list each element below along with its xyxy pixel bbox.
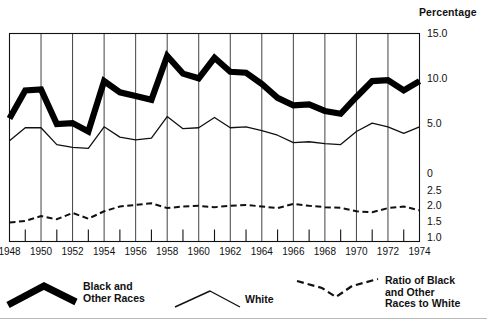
chart-figure: Percentage 15.010.05.002.52.01.51.0 1948…	[0, 0, 487, 321]
x-tick-1954: 1954	[93, 247, 115, 257]
series-line-ratio	[10, 203, 420, 222]
y-tick-ratio-2-5: 2.5	[427, 185, 442, 196]
y-tick-percent-5-0: 5.0	[427, 118, 442, 129]
series-line-black-and-other-races	[10, 56, 420, 132]
legend-swatch-black-and-other-races	[8, 286, 76, 305]
x-tick-1962: 1962	[219, 247, 241, 257]
legend-label-black-and-other-races: Black and Other Races	[83, 281, 145, 304]
x-tick-1948: 1948	[0, 247, 21, 257]
x-tick-1952: 1952	[61, 247, 83, 257]
y-tick-percent-10-0: 10.0	[427, 73, 447, 84]
y-axis-title-percentage: Percentage	[419, 6, 477, 18]
x-tick-1964: 1964	[251, 247, 273, 257]
x-tick-1958: 1958	[156, 247, 178, 257]
gridlines	[41, 34, 388, 242]
page-bottom-rule	[0, 318, 487, 319]
y-tick-percent-0: 0	[427, 168, 433, 179]
x-tick-1974: 1974	[408, 247, 430, 257]
legend-label-ratio: Ratio of Black and Other Races to White	[385, 275, 460, 310]
y-tick-ratio-1-0: 1.0	[427, 232, 442, 243]
y-tick-ratio-2-0: 2.0	[427, 200, 442, 211]
x-tick-1960: 1960	[188, 247, 210, 257]
x-tick-1970: 1970	[345, 247, 367, 257]
x-tick-1966: 1966	[282, 247, 304, 257]
plot-frame	[10, 34, 420, 242]
legend-swatch-ratio	[297, 279, 378, 297]
y-tick-percent-15-0: 15.0	[427, 28, 447, 39]
legend-swatch-white	[175, 291, 240, 307]
minor-tick-marks	[25, 230, 403, 242]
x-tick-1968: 1968	[314, 247, 336, 257]
x-tick-1956: 1956	[125, 247, 147, 257]
x-tick-1950: 1950	[30, 247, 52, 257]
y-tick-ratio-1-5: 1.5	[427, 216, 442, 227]
legend-label-white: White	[245, 294, 274, 306]
x-tick-1972: 1972	[377, 247, 399, 257]
